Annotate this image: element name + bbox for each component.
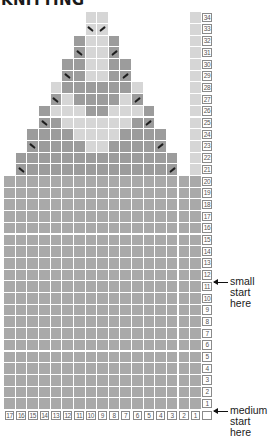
stitch-cell (62, 316, 73, 327)
stitch-cell (167, 387, 178, 398)
row-label: 8 (202, 317, 212, 327)
stitch-cell (144, 153, 155, 164)
row-label: 25 (202, 118, 212, 128)
small-start-label: start here (230, 287, 269, 309)
row-label: 13 (202, 258, 212, 268)
stitch-cell (51, 129, 62, 140)
stitch-cell (190, 235, 201, 246)
stitch-cell (120, 129, 131, 140)
stitch-cell (120, 375, 131, 386)
stitch-cell (97, 141, 108, 152)
stitch-cell (179, 199, 190, 210)
stitch-cell (16, 363, 27, 374)
stitch-cell (51, 176, 62, 187)
stitch-cell (86, 387, 97, 398)
stitch-cell (97, 106, 108, 117)
stitch-cell (27, 176, 38, 187)
stitch-cell (109, 59, 120, 70)
stitch-cell (97, 316, 108, 327)
stitch-cell (97, 94, 108, 105)
stitch-cell (86, 258, 97, 269)
stitch-cell (167, 188, 178, 199)
stitch-cell (39, 164, 50, 175)
stitch-cell (109, 293, 120, 304)
row-label: 23 (202, 141, 212, 151)
stitch-cell (16, 176, 27, 187)
stitch-cell (86, 188, 97, 199)
stitch-cell (4, 398, 15, 409)
stitch-cell (74, 363, 85, 374)
stitch-cell (16, 270, 27, 281)
stitch-cell (62, 129, 73, 140)
stitch-cell (190, 281, 201, 292)
stitch-cell (51, 164, 62, 175)
stitch-cell (120, 258, 131, 269)
stitch-cell (109, 47, 120, 58)
stitch-cell (167, 199, 178, 210)
stitch-cell (190, 211, 201, 222)
stitch-cell (16, 316, 27, 327)
stitch-cell (120, 305, 131, 316)
stitch-cell (74, 258, 85, 269)
stitch-cell (39, 246, 50, 257)
row-label: 15 (202, 235, 212, 245)
stitch-cell (51, 118, 62, 129)
stitch-cell (4, 223, 15, 234)
stitch-cell (167, 270, 178, 281)
stitch-cell (74, 375, 85, 386)
stitch-cell (167, 352, 178, 363)
stitch-cell (144, 246, 155, 257)
stitch-cell (86, 363, 97, 374)
stitch-cell (74, 47, 85, 58)
stitch-cell (27, 293, 38, 304)
row-label: 1 (202, 399, 212, 409)
stitch-cell (144, 258, 155, 269)
stitch-cell (27, 363, 38, 374)
stitch-cell (132, 387, 143, 398)
stitch-cell (97, 375, 108, 386)
stitch-cell (27, 246, 38, 257)
stitch-cell (120, 176, 131, 187)
stitch-cell (27, 281, 38, 292)
stitch-cell (190, 94, 201, 105)
stitch-cell (155, 199, 166, 210)
stitch-cell (109, 375, 120, 386)
stitch-cell (39, 281, 50, 292)
stitch-cell (62, 106, 73, 117)
stitch-cell (155, 235, 166, 246)
stitch-cell (62, 176, 73, 187)
stitch-cell (62, 199, 73, 210)
row-label: 4 (202, 364, 212, 374)
stitch-cell (74, 293, 85, 304)
stitch-cell (144, 363, 155, 374)
decrease-left-icon (41, 120, 48, 126)
stitch-cell (132, 211, 143, 222)
stitch-cell (109, 223, 120, 234)
stitch-cell (132, 82, 143, 93)
stitch-cell (179, 375, 190, 386)
stitch-cell (190, 246, 201, 257)
column-label: 8 (109, 411, 119, 421)
stitch-cell (16, 340, 27, 351)
stitch-cell (74, 71, 85, 82)
row-label: 6 (202, 340, 212, 350)
stitch-cell (132, 199, 143, 210)
stitch-cell (4, 328, 15, 339)
stitch-cell (39, 398, 50, 409)
stitch-cell (86, 94, 97, 105)
stitch-cell (62, 258, 73, 269)
stitch-cell (39, 141, 50, 152)
stitch-cell (167, 375, 178, 386)
stitch-cell (97, 258, 108, 269)
stitch-cell (86, 316, 97, 327)
small-arrow-icon (214, 282, 228, 283)
stitch-cell (51, 293, 62, 304)
stitch-cell (109, 235, 120, 246)
stitch-cell (74, 223, 85, 234)
stitch-cell (62, 305, 73, 316)
stitch-cell (86, 281, 97, 292)
stitch-cell (86, 82, 97, 93)
stitch-cell (62, 94, 73, 105)
stitch-cell (51, 340, 62, 351)
stitch-cell (62, 141, 73, 152)
